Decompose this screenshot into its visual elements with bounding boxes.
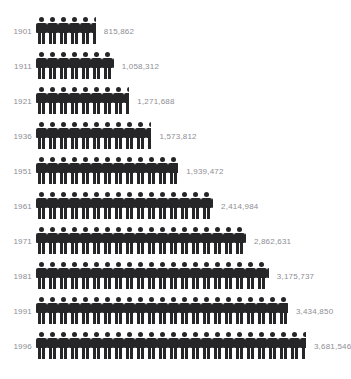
person-icon <box>58 84 69 115</box>
person-icon <box>113 119 124 150</box>
person-icon <box>146 259 157 290</box>
person-icon <box>135 329 146 360</box>
person-icon <box>157 224 168 255</box>
person-icon <box>245 224 246 255</box>
person-icon <box>135 259 146 290</box>
person-icon <box>36 154 47 185</box>
person-icon <box>223 294 234 325</box>
person-icon <box>157 294 168 325</box>
person-icon <box>146 154 157 185</box>
person-icon <box>102 329 113 360</box>
row-year-label: 1996 <box>0 342 32 351</box>
person-icon <box>135 154 146 185</box>
person-icon <box>190 224 201 255</box>
person-icon <box>256 329 267 360</box>
chart-row: 19211,271,688 <box>0 84 341 119</box>
person-icon <box>278 329 289 360</box>
person-icon <box>69 329 80 360</box>
person-icon <box>212 189 213 220</box>
row-pictogram-group <box>36 294 288 325</box>
person-icon <box>58 294 69 325</box>
person-icon <box>124 259 135 290</box>
person-icon <box>91 154 102 185</box>
person-icon <box>47 329 58 360</box>
person-icon <box>91 84 102 115</box>
person-icon <box>256 259 267 290</box>
person-icon <box>190 259 201 290</box>
person-icon <box>69 14 80 45</box>
person-icon <box>267 329 278 360</box>
person-icon <box>80 294 91 325</box>
row-pictogram-group <box>36 119 151 150</box>
person-icon <box>146 189 157 220</box>
chart-rows: 1901815,86219111,058,31219211,271,688193… <box>0 14 341 364</box>
person-icon <box>47 189 58 220</box>
person-icon <box>201 294 212 325</box>
person-icon <box>91 259 102 290</box>
person-icon <box>102 154 113 185</box>
person-icon <box>234 224 245 255</box>
person-icon <box>47 49 58 80</box>
person-icon <box>80 259 91 290</box>
person-icon <box>124 329 135 360</box>
person-icon <box>113 259 124 290</box>
person-icon <box>102 294 113 325</box>
person-icon <box>234 259 245 290</box>
person-icon <box>168 154 178 185</box>
row-year-label: 1961 <box>0 202 32 211</box>
row-year-label: 1921 <box>0 97 32 106</box>
person-icon <box>146 119 151 150</box>
person-icon <box>168 329 179 360</box>
person-icon <box>179 294 190 325</box>
row-value-label: 1,271,688 <box>137 97 174 106</box>
person-icon <box>102 49 113 80</box>
person-icon <box>69 154 80 185</box>
person-icon <box>190 189 201 220</box>
row-pictogram-group <box>36 189 213 220</box>
person-icon <box>212 259 223 290</box>
person-icon <box>135 189 146 220</box>
person-icon <box>157 259 168 290</box>
person-icon <box>201 329 212 360</box>
row-pictogram-group <box>36 14 96 45</box>
person-icon <box>58 154 69 185</box>
person-icon <box>102 224 113 255</box>
person-icon <box>69 294 80 325</box>
person-icon <box>113 84 124 115</box>
person-icon <box>157 329 168 360</box>
person-icon <box>69 84 80 115</box>
person-icon <box>113 154 124 185</box>
row-pictogram-group <box>36 84 129 115</box>
person-icon <box>80 224 91 255</box>
person-icon <box>80 189 91 220</box>
person-icon <box>36 224 47 255</box>
person-icon <box>113 224 124 255</box>
chart-row: 1901815,862 <box>0 14 341 49</box>
person-icon <box>245 259 256 290</box>
person-icon <box>124 224 135 255</box>
person-icon <box>190 294 201 325</box>
person-icon <box>102 259 113 290</box>
person-icon <box>47 224 58 255</box>
person-icon <box>36 49 47 80</box>
person-icon <box>179 329 190 360</box>
row-value-label: 1,058,312 <box>122 62 159 71</box>
person-icon <box>69 259 80 290</box>
person-icon <box>245 294 256 325</box>
person-icon <box>157 154 168 185</box>
row-year-label: 1971 <box>0 237 32 246</box>
person-icon <box>124 294 135 325</box>
person-icon <box>212 294 223 325</box>
person-icon <box>168 189 179 220</box>
person-icon <box>58 259 69 290</box>
person-icon <box>80 14 91 45</box>
person-icon <box>289 329 300 360</box>
person-icon <box>234 294 245 325</box>
person-icon <box>146 329 157 360</box>
person-icon <box>223 224 234 255</box>
person-icon <box>278 294 288 325</box>
row-value-label: 3,434,850 <box>296 307 333 316</box>
person-icon <box>179 189 190 220</box>
person-icon <box>36 294 47 325</box>
